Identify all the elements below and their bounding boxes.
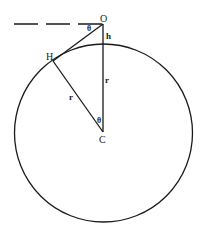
point-label-C: C: [99, 134, 106, 145]
radius-line-HC: [53, 61, 103, 132]
angle-label-theta-center: θ: [97, 116, 101, 125]
point-label-O: O: [100, 13, 107, 24]
radius-label-slant: r: [69, 92, 73, 102]
height-label-h: h: [106, 31, 111, 41]
angle-label-theta-top: θ: [87, 24, 91, 33]
point-label-H: H: [46, 51, 53, 62]
tangent-line-OH: [53, 24, 103, 61]
horizon-diagram: O H C h r r θ θ: [0, 0, 207, 239]
radius-label-vertical: r: [105, 75, 109, 85]
